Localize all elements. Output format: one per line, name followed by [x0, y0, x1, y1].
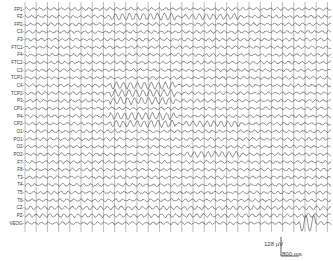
eeg-trace-veog — [25, 215, 331, 231]
eeg-trace-f4 — [25, 53, 331, 56]
eeg-trace-p4 — [25, 112, 331, 119]
eeg-trace-cp2 — [25, 120, 331, 127]
eeg-trace-t6 — [25, 199, 331, 202]
eeg-trace-t5 — [25, 191, 331, 194]
eeg-trace-ftc1 — [25, 46, 331, 49]
eeg-trace-o2 — [25, 145, 331, 148]
eeg-trace-ftc2 — [25, 61, 331, 64]
eeg-trace-c3 — [25, 69, 331, 72]
eeg-trace-t3 — [25, 176, 331, 179]
eeg-trace-t4 — [25, 183, 331, 186]
eeg-trace-cp1 — [25, 107, 331, 110]
time-scale-label: 800 ms — [282, 251, 302, 257]
eeg-trace-tcp2 — [25, 90, 331, 97]
eeg-trace-pz — [25, 213, 331, 217]
eeg-trace-f8 — [25, 168, 331, 171]
eeg-trace-o1 — [25, 130, 331, 133]
eeg-trace-c3 — [25, 30, 331, 33]
eeg-trace-fz — [25, 13, 331, 20]
eeg-trace-p3 — [25, 97, 331, 104]
eeg-trace-fp1 — [25, 7, 331, 10]
eeg-trace-c4 — [25, 82, 331, 89]
eeg-trace-f3 — [25, 38, 331, 41]
eeg-trace-cz — [25, 206, 331, 210]
eeg-trace-po1 — [25, 137, 331, 140]
eeg-trace-f7 — [25, 160, 331, 163]
eeg-trace-fp2 — [25, 23, 331, 26]
eeg-trace-po2 — [25, 151, 331, 157]
eeg-trace-tcp1 — [25, 76, 331, 79]
amplitude-scale-label: 128 μV — [264, 241, 283, 247]
eeg-plot — [0, 0, 333, 261]
